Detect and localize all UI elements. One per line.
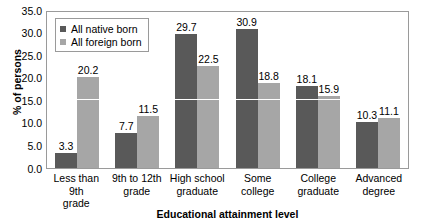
bar-value-label: 15.9 (319, 83, 339, 95)
y-axis-tick-label: 10.0 (8, 118, 42, 129)
bar: 7.7 (115, 133, 137, 168)
legend-entry: All native born (60, 22, 142, 35)
bar-value-label: 22.5 (198, 53, 218, 65)
bar-value-label: 18.1 (297, 73, 317, 85)
bar-chart: % of persons 0.05.010.015.020.025.030.03… (0, 0, 422, 224)
legend-swatch-icon (60, 39, 66, 45)
bar: 22.5 (197, 66, 219, 168)
bar: 20.2 (77, 77, 99, 168)
bar-value-label: 11.1 (379, 105, 399, 117)
x-axis-tick-label: 9th to 12thgrade (107, 172, 168, 210)
bar: 11.5 (137, 116, 159, 168)
x-axis-tick-label: Less than 9thgrade (46, 172, 107, 210)
legend-label: All native born (71, 23, 138, 35)
chart-title (60, 0, 360, 1)
x-axis-tick-label: Collegegraduate (288, 172, 349, 210)
bar-value-label: 18.8 (258, 70, 278, 82)
bar-value-label: 10.3 (357, 109, 377, 121)
bar-group: 29.722.5 (167, 12, 227, 168)
bar-value-label: 7.7 (119, 120, 134, 132)
y-axis-tick-label: 0.0 (8, 164, 42, 175)
bar: 18.8 (258, 83, 280, 168)
plot-area: 3.320.27.711.529.722.530.918.818.115.910… (46, 11, 409, 169)
y-axis-tick-label: 20.0 (8, 73, 42, 84)
y-axis-tick-label: 15.0 (8, 96, 42, 107)
bar: 3.3 (55, 153, 77, 168)
y-axis-tick-labels: 0.05.010.015.020.025.030.035.0 (8, 0, 42, 224)
y-axis-tick-label: 25.0 (8, 51, 42, 62)
legend-label: All foreign born (71, 36, 142, 48)
x-axis-tick-label: Advanceddegree (349, 172, 410, 210)
gridline (47, 99, 408, 100)
bar: 15.9 (318, 96, 340, 168)
bar: 10.3 (356, 122, 378, 168)
x-axis-tick-label: High schoolgraduate (167, 172, 228, 210)
legend-swatch-icon (60, 26, 66, 32)
bar-group: 18.115.9 (288, 12, 348, 168)
x-axis-tick-label: Somecollege (228, 172, 289, 210)
bar-value-label: 30.9 (236, 16, 256, 28)
bar: 11.1 (378, 118, 400, 168)
bar-value-label: 20.2 (78, 64, 98, 76)
y-axis-tick-label: 35.0 (8, 6, 42, 17)
x-axis-tick-labels: Less than 9thgrade9th to 12thgradeHigh s… (46, 172, 409, 210)
bar-value-label: 11.5 (138, 103, 158, 115)
legend-entry: All foreign born (60, 35, 142, 48)
bar: 29.7 (175, 34, 197, 168)
bar-value-label: 29.7 (176, 21, 196, 33)
y-axis-tick-label: 30.0 (8, 28, 42, 39)
chart-legend: All native bornAll foreign born (55, 18, 149, 52)
y-axis-tick-label: 5.0 (8, 141, 42, 152)
bar-value-label: 3.3 (59, 140, 74, 152)
bar-group: 30.918.8 (228, 12, 288, 168)
x-axis-title: Educational attainment level (46, 208, 409, 220)
bar: 30.9 (236, 29, 258, 168)
bar-group: 10.311.1 (348, 12, 408, 168)
